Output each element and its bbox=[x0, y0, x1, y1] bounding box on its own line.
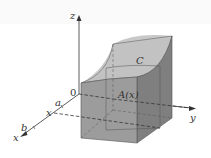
z-axis-label: z bbox=[69, 10, 76, 21]
solid-diagram: z 0 y a x b x C A(x) bbox=[0, 0, 211, 158]
y-axis-arrow-icon bbox=[189, 106, 196, 111]
x-axis-label: x bbox=[13, 132, 19, 143]
b-label: b bbox=[21, 122, 27, 133]
x-tick-label: x bbox=[46, 107, 52, 118]
a-label: a bbox=[55, 97, 61, 108]
y-axis-label: y bbox=[189, 112, 196, 123]
cross-section-label: A(x) bbox=[117, 89, 139, 100]
background-band bbox=[0, 0, 211, 24]
curve-C-label: C bbox=[136, 55, 144, 66]
origin-label: 0 bbox=[70, 87, 76, 98]
solid-front-face bbox=[81, 77, 137, 143]
